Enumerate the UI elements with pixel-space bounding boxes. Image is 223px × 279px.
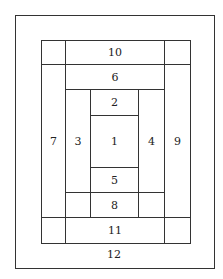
piece-7: 7	[42, 65, 66, 218]
piece-label-8: 8	[111, 199, 118, 212]
blank-cell	[66, 193, 91, 218]
piece-9: 9	[165, 65, 191, 218]
piece-4: 4	[139, 90, 165, 193]
piece-2: 2	[91, 90, 139, 116]
piece-label-2: 2	[111, 96, 118, 109]
piece-11: 11	[66, 218, 165, 244]
blank-cell	[42, 41, 66, 65]
numbered-pieces: 1234567891011	[42, 41, 191, 244]
piece-8: 8	[91, 193, 139, 218]
piece-label-7: 7	[50, 135, 57, 148]
piece-label-1: 1	[111, 135, 118, 148]
piece-label-10: 10	[108, 46, 122, 59]
blank-cell	[139, 193, 165, 218]
quilt-block-diagram: 1234567891011 12	[0, 0, 223, 279]
piece-label-9: 9	[174, 135, 181, 148]
piece-label-12: 12	[107, 248, 121, 261]
piece-label-4: 4	[148, 135, 155, 148]
piece-3: 3	[66, 90, 91, 193]
blank-cell	[165, 41, 191, 65]
piece-label-6: 6	[112, 71, 119, 84]
piece-1: 1	[91, 116, 139, 168]
piece-label-11: 11	[108, 224, 122, 237]
piece-6: 6	[66, 65, 165, 90]
blank-cell	[42, 218, 66, 244]
piece-label-5: 5	[111, 174, 118, 187]
piece-5: 5	[91, 168, 139, 193]
blank-cell	[165, 218, 191, 244]
piece-label-3: 3	[75, 135, 82, 148]
piece-10: 10	[66, 41, 165, 65]
